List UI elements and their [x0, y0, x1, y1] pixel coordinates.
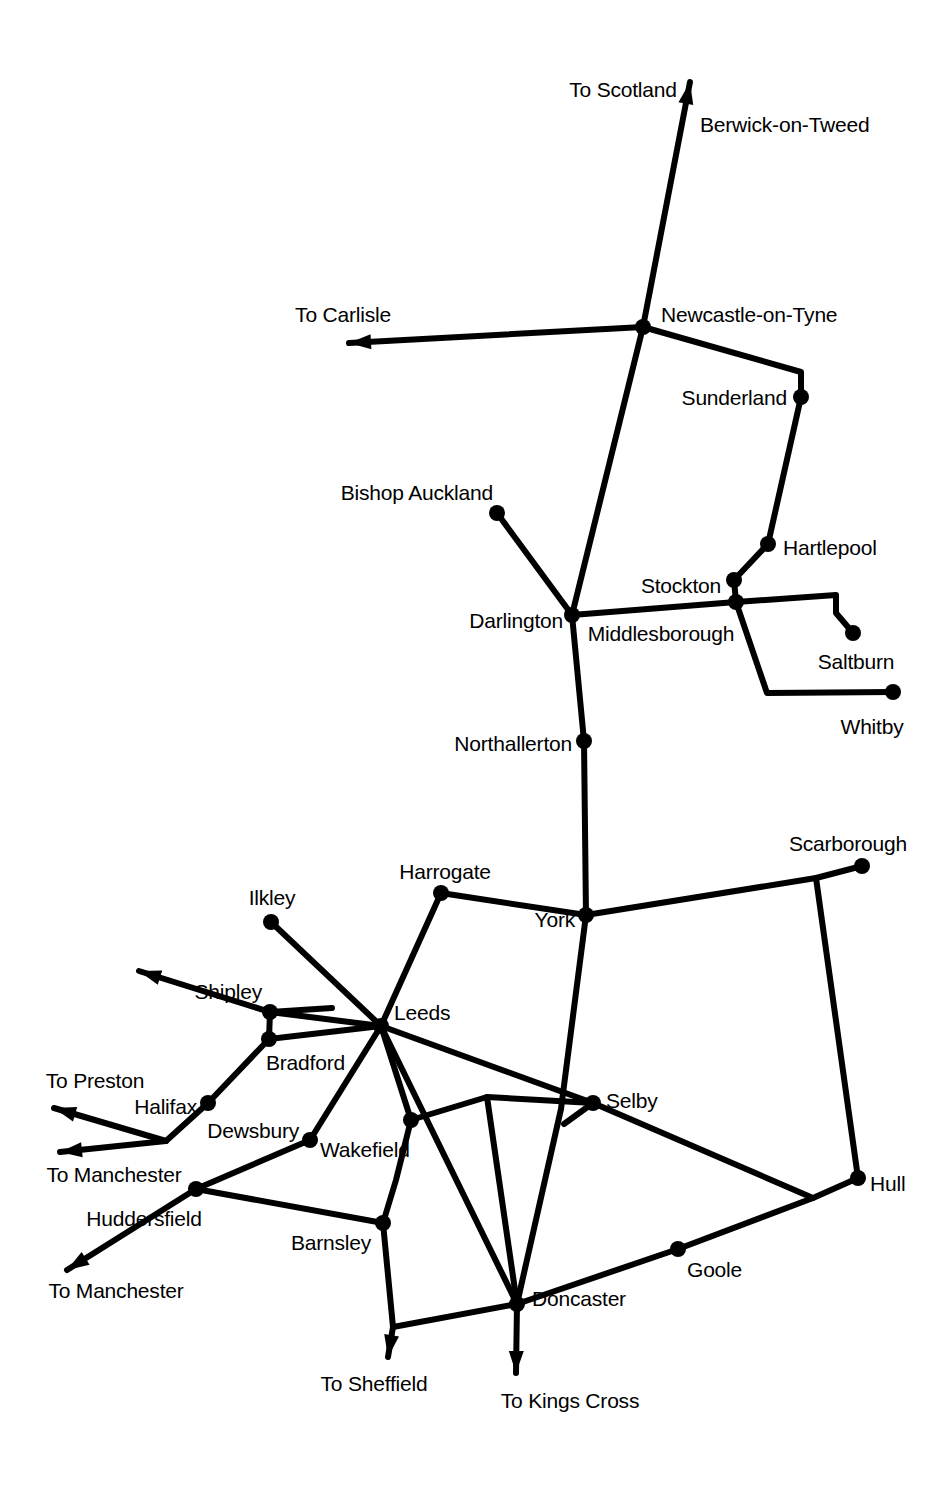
station-node[interactable] [375, 1215, 391, 1231]
station-label-berwick: Berwick-on-Tweed [700, 114, 870, 135]
station-node[interactable] [261, 1031, 277, 1047]
rail-line [208, 1039, 269, 1103]
station-nodes-layer [188, 319, 901, 1312]
destination-label-to_sheffield: To Sheffield [321, 1373, 428, 1394]
rail-line [768, 397, 801, 544]
station-node[interactable] [200, 1095, 216, 1111]
station-node[interactable] [489, 505, 505, 521]
station-label-wakefield: Wakefield [320, 1139, 410, 1160]
station-label-leeds: Leeds [394, 1002, 450, 1023]
station-node[interactable] [509, 1296, 525, 1312]
station-label-bishop_auckland: Bishop Auckland [341, 482, 493, 503]
station-node[interactable] [728, 594, 744, 610]
station-label-ilkley: Ilkley [249, 887, 296, 908]
rail-line [572, 327, 643, 615]
rail-line [349, 327, 643, 343]
station-label-saltburn: Saltburn [818, 651, 895, 672]
rail-line [67, 1189, 196, 1270]
station-node[interactable] [578, 907, 594, 923]
station-node[interactable] [845, 625, 861, 641]
destination-label-to_carlisle: To Carlisle [295, 304, 391, 325]
station-node[interactable] [263, 914, 279, 930]
station-label-dewsbury: Dewsbury [207, 1120, 299, 1141]
destination-label-to_preston: To Preston [46, 1070, 144, 1091]
rail-line [572, 602, 736, 615]
route-arrowhead [139, 970, 162, 984]
rail-line [196, 1140, 310, 1189]
rail-line [816, 878, 858, 1178]
station-node[interactable] [403, 1112, 419, 1128]
station-node[interactable] [850, 1170, 866, 1186]
station-label-doncaster: Doncaster [532, 1288, 626, 1309]
station-node[interactable] [262, 1004, 278, 1020]
station-label-goole: Goole [687, 1259, 742, 1280]
station-label-york: York [535, 909, 575, 930]
station-label-whitby: Whitby [841, 716, 904, 737]
rail-line [393, 1304, 517, 1327]
station-label-halifax: Halifax [134, 1096, 197, 1117]
rail-line [497, 513, 572, 615]
station-node[interactable] [188, 1181, 204, 1197]
station-label-darlington: Darlington [469, 610, 563, 631]
rail-line [584, 741, 586, 915]
station-node[interactable] [885, 684, 901, 700]
destination-label-to_manchester_1: To Manchester [46, 1164, 181, 1185]
rail-line [196, 1189, 383, 1223]
station-node[interactable] [635, 319, 651, 335]
station-node[interactable] [585, 1095, 601, 1111]
route-arrowhead [509, 1351, 524, 1373]
station-node[interactable] [564, 607, 580, 623]
route-arrowhead [54, 1107, 77, 1121]
rail-line [310, 1026, 381, 1140]
station-label-barnsley: Barnsley [291, 1232, 371, 1253]
rail-line [383, 1120, 411, 1223]
station-label-huddersfield: Huddersfield [86, 1208, 202, 1229]
station-node[interactable] [670, 1241, 686, 1257]
station-label-bradford: Bradford [266, 1052, 345, 1073]
station-label-stockton: Stockton [641, 575, 721, 596]
rail-line [572, 615, 584, 741]
station-label-scarborough: Scarborough [789, 833, 907, 854]
station-node[interactable] [373, 1018, 389, 1034]
rail-line [643, 82, 690, 327]
route-arrowhead [349, 334, 371, 349]
station-node[interactable] [433, 885, 449, 901]
rail-line [383, 1223, 393, 1327]
station-node[interactable] [726, 572, 742, 588]
station-label-selby: Selby [606, 1090, 658, 1111]
station-label-middlesborough: Middlesborough [588, 623, 735, 644]
destination-label-to_manchester_2: To Manchester [48, 1280, 183, 1301]
station-label-northallerton: Northallerton [454, 733, 572, 754]
railway-network-map: Berwick-on-TweedNewcastle-on-TyneSunderl… [0, 0, 951, 1487]
rail-line [736, 602, 893, 693]
station-label-harrogate: Harrogate [399, 861, 491, 882]
station-label-hartlepool: Hartlepool [783, 537, 877, 558]
station-label-shipley: Shipley [195, 981, 262, 1002]
station-label-newcastle: Newcastle-on-Tyne [661, 304, 837, 325]
station-node[interactable] [302, 1132, 318, 1148]
rail-line [269, 1026, 381, 1039]
rail-line [593, 1103, 858, 1198]
station-node[interactable] [793, 389, 809, 405]
station-label-hull: Hull [870, 1173, 905, 1194]
station-label-sunderland: Sunderland [682, 387, 787, 408]
rail-line [411, 1097, 593, 1120]
station-node[interactable] [854, 858, 870, 874]
rail-line [517, 915, 586, 1304]
rail-line [736, 595, 853, 633]
station-node[interactable] [576, 733, 592, 749]
destination-label-to_kings_cross: To Kings Cross [501, 1390, 639, 1411]
destination-label-to_scotland: To Scotland [569, 79, 677, 100]
station-node[interactable] [760, 536, 776, 552]
rail-line [678, 1198, 813, 1249]
